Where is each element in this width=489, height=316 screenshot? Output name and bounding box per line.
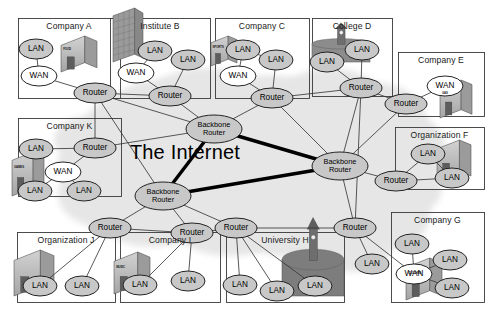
node-c-router[interactable] <box>251 88 293 108</box>
node-k-router[interactable] <box>74 138 116 158</box>
building-tag-bld-company-i: MUSIC <box>116 265 125 269</box>
building-tag-bld-company-g: CLOTHES <box>408 271 421 275</box>
frame-label-organization-f: Organization F <box>411 130 469 140</box>
node-c-wan[interactable] <box>220 66 256 86</box>
node-e-router[interactable] <box>385 94 427 114</box>
node-k-lan1[interactable] <box>19 139 53 159</box>
building-tag-bld-company-k: GAMES <box>14 165 24 169</box>
node-b-lan1[interactable] <box>138 41 172 61</box>
node-k-wan[interactable] <box>45 162 81 182</box>
node-r-g[interactable] <box>334 218 376 238</box>
frame-label-company-k: Company K <box>47 121 93 131</box>
node-d-router[interactable] <box>340 78 382 98</box>
frame-label-company-e: Company E <box>418 55 464 65</box>
node-c-lan2[interactable] <box>259 50 293 70</box>
building-tag-bld-company-e: GAS <box>442 91 448 95</box>
node-bb-top[interactable] <box>186 115 242 143</box>
node-bb-right[interactable] <box>312 152 368 180</box>
node-r-h[interactable] <box>215 218 257 238</box>
node-r-j[interactable] <box>89 218 131 238</box>
node-h-lan2[interactable] <box>260 281 294 301</box>
node-b-router[interactable] <box>149 86 191 106</box>
node-bb-left[interactable] <box>135 182 191 210</box>
node-i-lan1[interactable] <box>123 275 157 295</box>
building-tag-bld-company-a: FOOD <box>63 47 71 51</box>
node-k-lan3[interactable] <box>67 181 101 201</box>
node-d-lan1[interactable] <box>310 52 344 72</box>
node-b-wan[interactable] <box>118 63 154 83</box>
node-g-lan2[interactable] <box>433 250 467 270</box>
node-b-lan2[interactable] <box>171 50 205 70</box>
node-c-lan1[interactable] <box>226 40 260 60</box>
frame-label-institute-b: Institute B <box>140 21 179 31</box>
frame-label-company-a: Company A <box>46 21 91 31</box>
node-i-lan2[interactable] <box>171 271 205 291</box>
frame-label-company-g: Company G <box>414 215 461 225</box>
node-a-lan1[interactable] <box>19 39 53 59</box>
frame-label-company-i: Company I <box>149 235 191 245</box>
node-j-lan2[interactable] <box>65 276 99 296</box>
node-f-lan2[interactable] <box>435 168 469 188</box>
node-j-lan1[interactable] <box>23 276 57 296</box>
node-f-lan1[interactable] <box>411 144 445 164</box>
network-topology-svg <box>0 0 489 316</box>
diagram-canvas: Company AInstitute BCompany CCollege DCo… <box>0 0 489 316</box>
node-g-lan-out[interactable] <box>355 254 389 274</box>
frame-label-college-d: College D <box>333 21 372 31</box>
node-g-lan1[interactable] <box>395 234 429 254</box>
node-a-router[interactable] <box>74 83 116 103</box>
frame-label-university-h: University H <box>261 235 309 245</box>
node-g-lan3[interactable] <box>435 278 469 298</box>
building-tag-bld-company-c: SPORTS <box>213 45 224 49</box>
internet-center-label: The Internet <box>130 141 240 164</box>
frame-label-organization-j: Organization J <box>38 235 95 245</box>
node-f-router[interactable] <box>375 171 417 191</box>
node-d-lan2[interactable] <box>345 40 379 60</box>
bld-company-a <box>61 36 97 72</box>
node-h-lan1[interactable] <box>223 275 257 295</box>
node-k-lan2[interactable] <box>18 181 52 201</box>
frame-label-company-c: Company C <box>239 21 285 31</box>
node-h-lan3[interactable] <box>298 276 332 296</box>
node-a-wan[interactable] <box>21 66 57 86</box>
